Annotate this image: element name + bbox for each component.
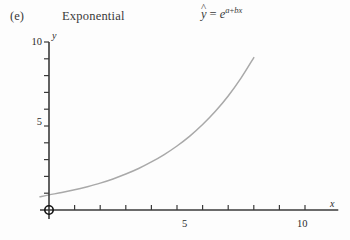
- x-tick-label-10: 10: [297, 219, 308, 230]
- x-axis-label: x: [330, 199, 334, 209]
- curve-group: [40, 58, 254, 197]
- x-tick-label-5: 5: [182, 219, 187, 230]
- y-tick-label-5: 5: [27, 117, 42, 128]
- y-axis-label: y: [52, 31, 56, 41]
- y-tick-label-10: 10: [27, 37, 42, 48]
- figure-panel: (e) Exponential ^y=ea+bx y x 10 5 5 10: [0, 0, 350, 240]
- axes-group: [40, 42, 338, 219]
- exponential-curve: [40, 58, 254, 197]
